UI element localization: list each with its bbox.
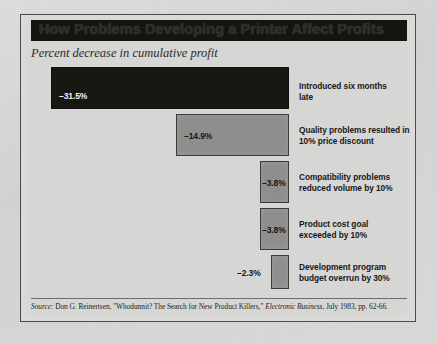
source-citation-detail: , July 1983, pp. 62-66. [322,302,387,311]
chart-subtitle: Percent decrease in cumulative profit [31,46,218,61]
bar-annotation: Quality problems resulted in 10% price d… [299,125,410,146]
bar-value-label: –2.3% [237,268,261,278]
bar-value-label: –14.9% [184,131,212,141]
bar-row: –14.9% Quality problems resulted in 10% … [21,114,417,158]
source-citation: Source: Don G. Reinertsen, "Whodunnit? T… [31,302,409,311]
source-journal: Electronic Business [263,302,322,311]
title-banner: How Problems Developing a Printer Affect… [31,20,407,41]
bar-row: –3.8% Product cost goal exceeded by 10% [21,208,417,252]
chart-title: How Problems Developing a Printer Affect… [39,21,384,37]
source-author-article: Don G. Reinertsen, "Whodunnit? The Searc… [53,302,263,311]
source-divider [31,298,407,299]
bar-row: –31.5% Introduced six months late [21,67,417,111]
bar-annotation: Introduced six months late [299,81,387,102]
bar [271,255,289,289]
bar-annotation: Product cost goal exceeded by 10% [299,219,368,240]
bar-value-label: –3.8% [262,178,286,188]
bar-value-label: –31.5% [59,91,87,101]
bar-annotation: Compatibility problems reduced volume by… [299,172,392,193]
bar-row: –3.8% Compatibility problems reduced vol… [21,161,417,205]
bar-chart-plot-area: –31.5% Introduced six months late –14.9%… [21,67,417,289]
source-label: Source: [31,302,53,311]
bar-value-label: –3.8% [262,225,286,235]
figure-panel: How Problems Developing a Printer Affect… [20,14,416,322]
bar-row: –2.3% Development program budget overrun… [21,255,417,295]
bar-annotation: Development program budget overrun by 30… [299,262,390,283]
bar [51,67,289,109]
